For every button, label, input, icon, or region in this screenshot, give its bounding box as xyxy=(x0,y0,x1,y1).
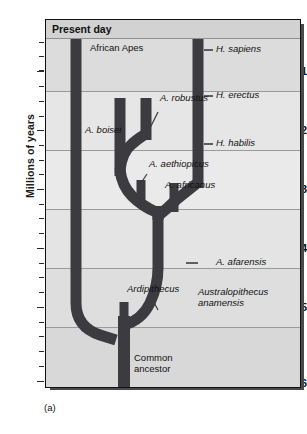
tick-minor xyxy=(39,42,44,43)
y-axis-title: Millions of years xyxy=(24,86,36,226)
tick-major xyxy=(37,130,44,131)
label-a-boisei: A. boisei xyxy=(85,125,121,136)
tick-major xyxy=(37,307,44,308)
tick-minor xyxy=(39,292,44,293)
tick-minor xyxy=(39,322,44,323)
label-a-aethiopicus: A. aethiopicus xyxy=(149,159,209,170)
tick-minor xyxy=(39,263,44,264)
label-a-afarensis: A. afarensis xyxy=(216,257,266,268)
tick-minor xyxy=(39,233,44,234)
branch-african-apes xyxy=(76,39,116,340)
tick-minor xyxy=(39,218,44,219)
phylogenetic-tree-branches xyxy=(46,20,301,388)
hominid-phylogeny-figure: Millions of years 1 2 3 4 5 6 xyxy=(0,0,307,434)
label-common-ancestor: Common ancestor xyxy=(134,353,196,375)
tick-major xyxy=(37,248,44,249)
tick-minor xyxy=(39,204,44,205)
label-a-robustus: A. robustus xyxy=(160,93,208,104)
plot-frame: Present day xyxy=(45,19,301,388)
tick-major xyxy=(37,71,44,72)
branch-anamensis-afarensis xyxy=(124,216,158,325)
tick-minor xyxy=(39,160,44,161)
tick-minor xyxy=(39,366,44,367)
label-australopithecus-anamensis: Australopithecus anamensis xyxy=(198,287,294,309)
label-a-africanus: A. africanus xyxy=(165,180,215,191)
label-h-erectus: H. erectus xyxy=(216,90,259,101)
tick-major xyxy=(37,189,44,190)
label-h-habilis: H. habilis xyxy=(216,138,255,149)
tick-minor xyxy=(39,86,44,87)
label-ardipithecus: Ardipithecus xyxy=(127,284,179,295)
label-african-apes: African Apes xyxy=(90,43,143,54)
figure-caption: (a) xyxy=(44,402,56,413)
tick-minor xyxy=(39,277,44,278)
tick-minor xyxy=(39,101,44,102)
label-h-sapiens: H. sapiens xyxy=(216,44,261,55)
tick-minor xyxy=(39,336,44,337)
tick-major xyxy=(37,381,44,382)
tick-minor xyxy=(39,351,44,352)
tick-minor xyxy=(39,174,44,175)
tick-minor xyxy=(39,145,44,146)
tick-minor xyxy=(39,56,44,57)
tick-minor xyxy=(39,116,44,117)
